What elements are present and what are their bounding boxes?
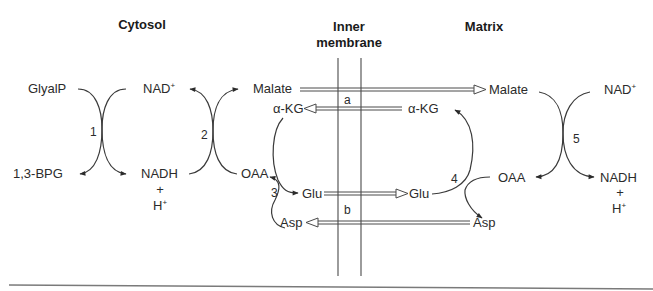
- malate-aspartate-shuttle-diagram: Cytosol Inner membrane Matrix GlyalP 1,3…: [0, 0, 653, 291]
- header-inner-membrane-line1: Inner: [333, 19, 365, 34]
- metabolite-malate-cytosol: Malate: [253, 81, 292, 96]
- header-matrix: Matrix: [465, 19, 504, 34]
- metabolite-oaa-matrix: OAA: [498, 170, 526, 185]
- transporter-label-a: a: [344, 93, 351, 107]
- reaction-label-1: 1: [90, 125, 97, 139]
- akg-transport-arrowhead: [304, 104, 316, 113]
- metabolite-glu-matrix: Glu: [409, 186, 429, 201]
- header-cytosol: Cytosol: [118, 17, 166, 32]
- reaction-label-2: 2: [201, 128, 208, 142]
- header-inner-membrane-line2: membrane: [316, 35, 382, 50]
- asp-transport-arrowhead: [306, 218, 318, 227]
- metabolite-nadh-cytosol: NADH: [141, 166, 178, 181]
- metabolite-nad-plus-matrix: NAD+: [604, 82, 636, 97]
- reaction-label-4: 4: [451, 172, 458, 186]
- metabolite-oaa-cytosol: OAA: [241, 166, 269, 181]
- reaction-4-curve-oaa-to-asp: [465, 177, 490, 218]
- metabolite-glyalp: GlyalP: [28, 81, 66, 96]
- metabolite-h-plus-matrix: H+: [612, 201, 626, 216]
- reaction-1-curve-right: [102, 89, 126, 174]
- metabolite-nad-plus-cytosol: NAD+: [143, 81, 175, 96]
- transporter-label-b: b: [344, 203, 351, 217]
- metabolite-1-3-bpg: 1,3-BPG: [13, 166, 63, 181]
- metabolite-h-plus-cytosol: H+: [153, 198, 167, 213]
- reaction-2-curve-right: [213, 89, 238, 174]
- metabolite-asp-cytosol: Asp: [280, 215, 302, 230]
- malate-transport-arrowhead: [474, 85, 486, 94]
- reaction-label-5: 5: [573, 132, 580, 146]
- plus-sign-cytosol: +: [156, 182, 164, 197]
- reaction-label-3: 3: [271, 186, 278, 200]
- metabolite-akg-matrix: α-KG: [408, 101, 439, 116]
- reaction-5-curve-malate-to-oaa: [536, 92, 563, 177]
- glu-transport-arrowhead: [396, 189, 408, 198]
- metabolite-glu-cytosol: Glu: [302, 186, 322, 201]
- plus-sign-matrix: +: [616, 185, 624, 200]
- metabolite-asp-matrix: Asp: [473, 215, 495, 230]
- metabolite-malate-matrix: Malate: [489, 82, 528, 97]
- metabolite-akg-cytosol: α-KG: [273, 101, 304, 116]
- bottom-divider: [9, 285, 653, 289]
- metabolite-nadh-matrix: NADH: [600, 170, 637, 185]
